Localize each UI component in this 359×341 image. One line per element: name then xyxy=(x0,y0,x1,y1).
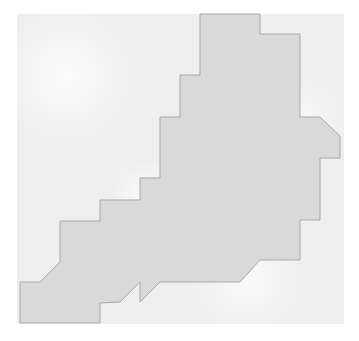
region-shape[interactable] xyxy=(20,14,340,323)
map-svg xyxy=(0,0,359,341)
